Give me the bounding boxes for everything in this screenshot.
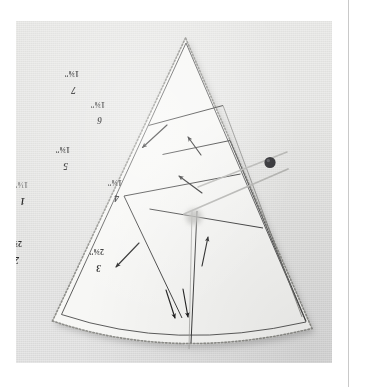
measurement-6: 1⅜" — [90, 100, 105, 109]
pin-shadow-blob — [186, 209, 202, 225]
section-number-1: 1 — [20, 196, 25, 206]
section-number-6: 6 — [97, 115, 102, 125]
measurement-4: 1⅜" — [107, 178, 122, 187]
pin-head-highlight — [267, 159, 270, 162]
measurement-2: 2⅜" — [16, 239, 22, 248]
pattern-photograph: 1⅜" 7 1⅜" 6 1⅜" 5 1⅜" 4 1⅛" 1 2⅜" 2 2⅜" … — [16, 21, 332, 363]
measurement-5: 1⅜" — [55, 145, 70, 154]
pattern-paper-body — [53, 38, 313, 344]
section-number-2: 2 — [16, 255, 19, 265]
measurement-3: 2⅜" — [89, 247, 104, 256]
page-canvas: 1⅜" 7 1⅜" 6 1⅜" 5 1⅜" 4 1⅛" 1 2⅜" 2 2⅜" … — [0, 0, 365, 387]
measurement-7: 1⅜" — [64, 69, 79, 78]
section-number-3: 3 — [96, 263, 101, 273]
section-number-7: 7 — [71, 85, 76, 95]
page-margin-rule — [348, 0, 349, 387]
pin-head — [264, 157, 275, 168]
measurement-1: 1⅛" — [16, 180, 28, 189]
section-number-4: 4 — [114, 193, 119, 203]
section-number-5: 5 — [63, 161, 68, 171]
